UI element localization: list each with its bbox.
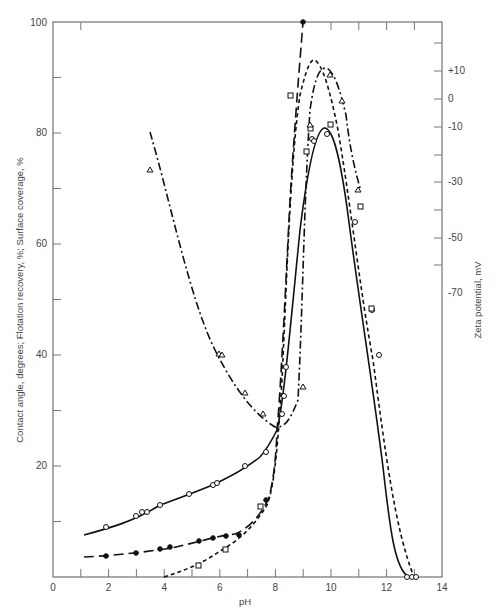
x-tick-14: 14 (436, 582, 448, 593)
y-tick-40: 40 (36, 349, 48, 360)
x-tick-12: 12 (381, 582, 393, 593)
y2-tick-0: 0 (448, 93, 454, 104)
x-tick-6: 6 (217, 582, 223, 593)
x-tick-2: 2 (106, 582, 112, 593)
x-tick-4: 4 (161, 582, 167, 593)
chart: 20 40 60 80 100 0 2 4 6 8 10 12 14 +10 0… (0, 0, 499, 612)
y2-tick-minus30: -30 (448, 176, 463, 187)
x-tick-labels: 0 2 4 6 8 10 12 14 (50, 582, 448, 593)
y2-axis-title: Zeta potential, mV (472, 261, 483, 339)
y-tick-20: 20 (36, 460, 48, 471)
series-flotation-recovery (84, 22, 303, 557)
right-y-tick-labels: +10 0 -10 -30 -50 -70 (448, 65, 465, 298)
right-y-ticks (434, 43, 442, 265)
y2-tick-minus50: -50 (448, 232, 463, 243)
plot-frame (53, 22, 442, 577)
y2-tick-minus70: -70 (448, 287, 463, 298)
x-tick-8: 8 (273, 582, 279, 593)
y2-tick-minus10: -10 (448, 121, 463, 132)
y-tick-100: 100 (30, 17, 47, 28)
y-tick-60: 60 (36, 238, 48, 249)
x-axis-title: pH (239, 596, 251, 607)
y2-tick-plus10: +10 (448, 65, 465, 76)
x-tick-0: 0 (50, 582, 56, 593)
y-axis-title: Contact angle, degrees; Flotation recove… (14, 157, 25, 443)
series-contact-angle (84, 128, 409, 577)
left-y-ticks (53, 78, 61, 522)
markers-flotation-recovery (104, 20, 306, 559)
x-ticks (81, 22, 415, 577)
y-tick-80: 80 (36, 127, 48, 138)
left-y-tick-labels: 20 40 60 80 100 (30, 17, 47, 471)
x-tick-10: 10 (325, 582, 337, 593)
